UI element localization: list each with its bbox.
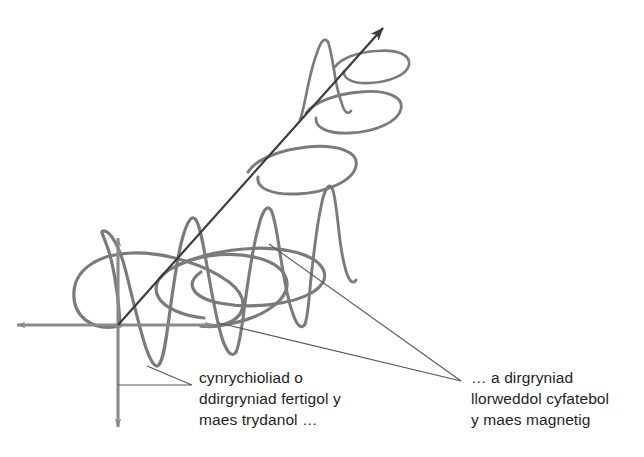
electric-caption-line-1: cynrychioliad o	[199, 367, 341, 388]
electric-field-caption: cynrychioliad o ddirgryniad fertigol y m…	[199, 367, 341, 430]
magnetic-caption-line-2: llorweddol cyfatebol	[471, 388, 609, 409]
electric-caption-line-3: maes trydanol …	[199, 409, 341, 430]
magnetic-caption-line-1: … a dirgryniad	[471, 367, 609, 388]
electromagnetic-wave-figure: cynrychioliad o ddirgryniad fertigol y m…	[0, 0, 644, 457]
coordinate-axes	[17, 238, 213, 427]
magnetic-caption-line-3: y maes magnetig	[471, 409, 609, 430]
leader-line-magnetic-upper	[269, 244, 461, 381]
electric-caption-line-2: ddirgryniad fertigol y	[199, 388, 341, 409]
magnetic-field-caption: … a dirgryniad llorweddol cyfatebol y ma…	[471, 367, 609, 430]
leader-line-electric	[118, 366, 192, 385]
